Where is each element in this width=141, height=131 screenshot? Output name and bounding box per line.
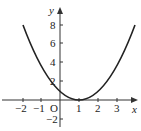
y-tick-neg2: −2 [46,113,58,125]
x-tick-3: 3 [114,102,120,114]
y-axis-arrow-icon [57,7,63,14]
x-tick-neg2: −2 [15,102,27,114]
x-tick-neg1: −1 [33,102,45,114]
x-axis-label: x [131,103,137,115]
x-tick-2: 2 [95,102,101,114]
y-tick-8: 8 [50,19,56,31]
y-tick-2: 2 [50,75,56,87]
x-tick-1: 1 [76,102,82,114]
y-axis-label: y [48,4,54,16]
parabola-curve [23,25,135,100]
parabola-chart: y x 8 6 4 2 −2 −2 −1 O 1 2 3 [0,0,141,131]
y-tick-4: 4 [50,56,56,68]
origin-label: O [50,102,58,114]
y-tick-6: 6 [50,37,56,49]
